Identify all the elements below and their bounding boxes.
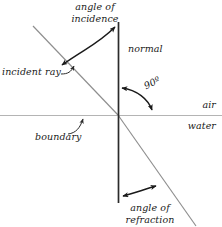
angle-of-incidence-label-line1: angle of <box>71 1 118 13</box>
angle-of-incidence-label-line2: incidence <box>71 13 118 25</box>
diagram-canvas <box>0 0 222 227</box>
angle-of-incidence-label: angle of incidence <box>71 1 118 24</box>
angle-of-refraction-arc <box>123 186 156 196</box>
normal-label: normal <box>128 43 163 55</box>
water-label: water <box>188 120 216 132</box>
refraction-diagram: angle of incidence normal incident ray 9… <box>0 0 222 227</box>
boundary-label: boundary <box>35 131 82 143</box>
angle-of-incidence-arc <box>62 27 115 65</box>
light-ray-group <box>33 26 196 226</box>
angle-of-refraction-label-line1: angle of <box>126 202 175 214</box>
air-label: air <box>202 99 216 111</box>
angle-of-refraction-label: angle of refraction <box>126 202 175 225</box>
incident-ray-label: incident ray <box>2 66 61 78</box>
angle-of-refraction-label-line2: refraction <box>126 214 175 226</box>
